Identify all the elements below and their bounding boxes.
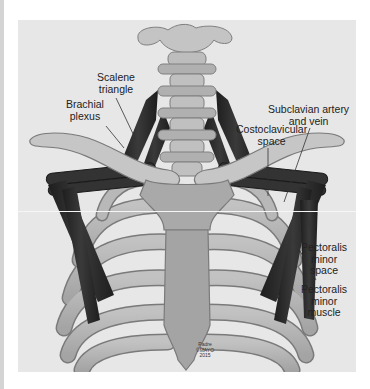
label-brachial-plexus: Brachial plexus [66,99,104,122]
thoracic-outlet-illustration [18,20,356,372]
label-scalene-triangle: Scalene triangle [97,72,135,95]
left-edge-strip [0,0,4,389]
illustration-credit: Padre ©MAYO 2015 [196,342,214,359]
label-costoclavicular-space: Costoclavicular space [236,124,307,147]
label-pectoralis-minor-muscle: Pectoralis minor muscle [301,284,347,319]
anatomy-figure: Scalene triangle Brachial plexus Subclav… [18,20,356,372]
scan-artifact-line [18,211,356,212]
label-pectoralis-minor-space: Pectoralis minor space [301,242,347,277]
